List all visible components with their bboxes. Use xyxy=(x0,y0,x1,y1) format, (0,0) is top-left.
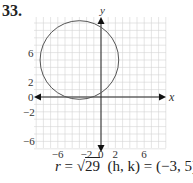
sqrt-symbol-icon: √ xyxy=(77,158,85,174)
svg-text:0: 0 xyxy=(28,91,34,103)
coordinate-plane: xy −6−2026620−2−6 xyxy=(0,0,193,183)
svg-text:y: y xyxy=(99,4,105,16)
center-text: (h, k) = (−3, 5) xyxy=(108,158,193,174)
svg-text:6: 6 xyxy=(28,47,34,59)
svg-text:−6: −6 xyxy=(23,135,35,147)
tick-labels: −6−2026620−2−6 xyxy=(23,47,147,160)
sqrt-value: 29 xyxy=(85,158,100,174)
axes: xy xyxy=(34,4,175,152)
svg-text:x: x xyxy=(168,90,175,104)
equals-sign: = xyxy=(61,158,77,174)
svg-text:2: 2 xyxy=(28,76,34,88)
svg-text:−2: −2 xyxy=(23,106,35,118)
equation-caption: r = √29 (h, k) = (−3, 5) xyxy=(55,158,193,175)
grid-lines xyxy=(34,17,166,149)
